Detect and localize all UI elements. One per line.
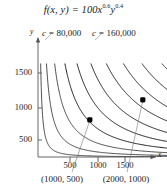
x-axis-label: x [158,150,161,159]
y-tick-label-1000: 1000 [6,102,32,112]
contour-level-140000 [107,64,167,122]
contour-level-20000 [41,64,167,157]
contour-label-80000: c = 80,000 [42,28,81,38]
contour-level-180000 [142,64,167,92]
contour-level-80000 [65,64,167,148]
figure-title: f(x, y) = 100x0.6y0.4 [0,2,167,15]
contour-level-160000 [124,64,167,108]
contour-curves [41,53,167,157]
marked-point-1000-500 [87,117,92,122]
y-axis-label: y [30,27,33,36]
x-tick-label-1500: 1500 [110,160,140,170]
x-tick-label-1000: 1000 [83,160,113,170]
contour-level-60000 [55,64,167,153]
x-tick-label-500: 500 [55,160,85,170]
point-label-2000-1000: (2000, 1000) [86,174,166,184]
axes [38,38,156,162]
title-exponent-y: 0.4 [115,2,123,9]
contour-label-160000: c = 160,000 [92,28,136,38]
marked-points [87,97,145,122]
contour-level-200000 [162,64,167,72]
contour-value-80000: 80,000 [57,28,82,38]
marked-point-2000-1000 [140,97,145,102]
contour-level-100000 [77,64,167,142]
y-axis-arrow [36,37,40,43]
y-tick-label-500: 500 [6,134,32,144]
y-tick-label-1500: 1500 [6,67,32,77]
contour-value-160000: 160,000 [107,28,136,38]
